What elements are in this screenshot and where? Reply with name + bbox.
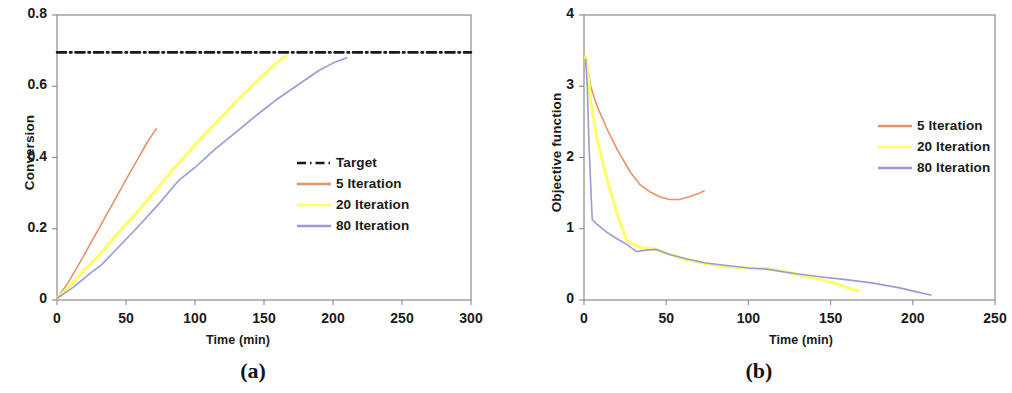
series-line [586,56,859,290]
legend-swatch [297,178,331,190]
legend-swatch [878,120,912,132]
y-tick-label: 0.2 [0,219,47,235]
x-tick-label: 300 [436,310,506,326]
legend-item-label: 5 Iteration [917,118,983,133]
legend-swatch [297,199,331,211]
y-tick-label: 4 [512,5,574,21]
legend-item-label: 5 Iteration [336,176,402,191]
x-tick-label: 250 [367,310,437,326]
x-tick-label: 250 [960,310,1012,326]
x-tick-label: 100 [160,310,230,326]
panel-a: Conversion Time (min) (a) Target5 Iterat… [0,0,506,393]
legend-item[interactable]: 80 Iteration [878,157,990,178]
legend-swatch [878,141,912,153]
x-tick-label: 50 [91,310,161,326]
legend-item[interactable]: 80 Iteration [297,215,409,236]
y-tick-label: 1 [512,219,574,235]
panel-b: Objective function Time (min) (b) 5 Iter… [506,0,1012,393]
legend-swatch [878,162,912,174]
y-tick-label: 0.6 [0,76,47,92]
y-tick-label: 2 [512,148,574,164]
legend-item-label: 20 Iteration [917,139,990,154]
x-tick-label: 200 [298,310,368,326]
legend-swatch [297,220,331,232]
x-tick-label: 0 [22,310,92,326]
series-line [586,58,704,200]
series-line [57,129,156,298]
legend-item-label: Target [336,155,377,170]
x-tick-label: 100 [713,310,783,326]
x-tick-label: 150 [229,310,299,326]
y-tick-label: 0 [512,290,574,306]
x-tick-label: 200 [878,310,948,326]
legend-swatch [297,157,331,169]
legend-item[interactable]: 5 Iteration [878,115,990,136]
legend-item-label: 20 Iteration [336,197,409,212]
legend-b: 5 Iteration20 Iteration80 Iteration [878,115,990,178]
y-tick-label: 0.8 [0,5,47,21]
x-tick-label: 50 [631,310,701,326]
x-tick-label: 150 [796,310,866,326]
x-axis-title-b: Time (min) [716,333,886,347]
legend-a: Target5 Iteration20 Iteration80 Iteratio… [297,152,409,236]
figure-container: Conversion Time (min) (a) Target5 Iterat… [0,0,1012,393]
legend-item[interactable]: 20 Iteration [878,136,990,157]
legend-item[interactable]: 5 Iteration [297,173,409,194]
legend-item[interactable]: 20 Iteration [297,194,409,215]
legend-item[interactable]: Target [297,152,409,173]
y-tick-label: 0 [0,290,47,306]
panel-caption-a: (a) [0,358,506,384]
legend-item-label: 80 Iteration [336,218,409,233]
panel-caption-b: (b) [506,358,1012,384]
series-line [57,56,286,298]
y-tick-label: 0.4 [0,148,47,164]
x-axis-title-a: Time (min) [153,333,323,347]
legend-item-label: 80 Iteration [917,160,990,175]
y-tick-label: 3 [512,76,574,92]
x-tick-label: 0 [549,310,619,326]
